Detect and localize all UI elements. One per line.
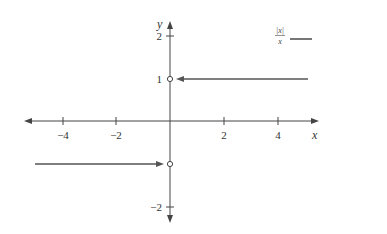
legend-denominator: x: [277, 37, 282, 46]
legend-numerator: |x|: [276, 26, 284, 35]
open-circle-marker: [167, 76, 172, 81]
y-axis-up-arrow-icon: [167, 21, 173, 29]
x-axis-right-arrow-icon: [311, 118, 319, 124]
open-circle-marker: [167, 161, 172, 166]
y-tick-label: 2: [157, 30, 163, 42]
y-axis: y: [156, 17, 173, 223]
x-tick-label: 4: [275, 129, 281, 141]
x-tick-label: 2: [221, 129, 227, 141]
y-axis-label: y: [156, 17, 163, 31]
lower-branch-arrowhead-icon: [156, 161, 164, 167]
x-axis-left-arrow-icon: [24, 118, 32, 124]
y-tick-label: 1: [157, 73, 163, 85]
x-tick-label: −4: [57, 129, 69, 141]
x-tick-label: −2: [110, 129, 122, 141]
legend: |x| x: [275, 26, 312, 46]
chart: x y −4 −2 2 4 2 1 −2 |x|: [0, 0, 387, 234]
upper-branch-arrowhead-icon: [176, 76, 184, 82]
y-tick-label: −2: [150, 201, 162, 213]
y-axis-down-arrow-icon: [167, 215, 173, 223]
x-axis-label: x: [311, 128, 318, 142]
